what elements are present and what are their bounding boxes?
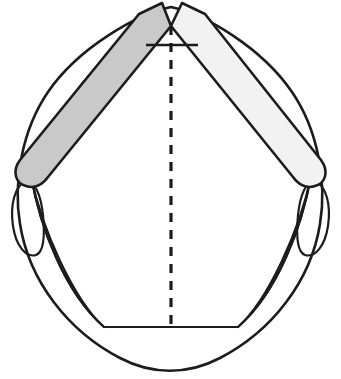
midline-group bbox=[146, 26, 198, 327]
left-band bbox=[15, 3, 171, 187]
inner-contour-left-line bbox=[31, 176, 104, 327]
right-band-group bbox=[171, 3, 326, 187]
figure-root: Superior view schematic of cranium with … bbox=[0, 0, 341, 379]
left-band-group bbox=[15, 3, 171, 187]
anatomical-diagram bbox=[0, 0, 341, 379]
left-ear bbox=[12, 180, 44, 255]
right-band bbox=[171, 3, 326, 187]
